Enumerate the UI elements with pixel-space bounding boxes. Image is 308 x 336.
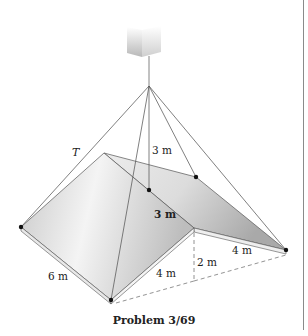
attachment-dot — [109, 298, 113, 302]
label-wall-height: 2 m — [197, 257, 217, 268]
label-ridge-width: 3 m — [154, 209, 176, 220]
label-tension: T — [72, 147, 79, 158]
attachment-dot — [284, 248, 288, 252]
problem-figure: T 3 m 3 m 6 m 4 m 2 m 4 m — [0, 0, 308, 336]
label-cable-height: 3 m — [152, 145, 172, 156]
cable-back — [149, 86, 196, 177]
attachment-dot — [194, 175, 198, 179]
roof-cable-diagram — [0, 0, 308, 336]
attachment-dot — [147, 188, 151, 192]
attachment-dot — [19, 225, 23, 229]
page-divider — [303, 0, 304, 330]
figure-caption: Problem 3/69 — [0, 314, 308, 327]
label-right-edge: 4 m — [232, 245, 252, 256]
hanging-block — [127, 26, 161, 57]
label-front-edge: 4 m — [156, 268, 176, 279]
label-left-edge: 6 m — [48, 271, 68, 282]
